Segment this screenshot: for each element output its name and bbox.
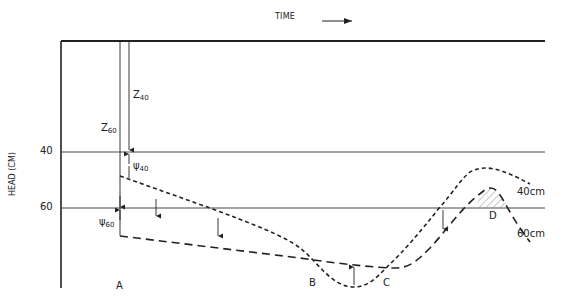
z60-label: Z60	[101, 122, 117, 135]
curve-40cm-label: 40cm	[517, 186, 545, 197]
y-axis-label: HEAD (CM)	[8, 152, 17, 196]
psi60-label: ψ60	[99, 216, 115, 229]
point-c-label: C	[383, 277, 390, 288]
point-a-label: A	[116, 280, 123, 291]
tick-60: 60	[40, 201, 53, 212]
time-axis-label: TIME	[275, 12, 295, 21]
diagram-canvas	[0, 0, 563, 303]
point-d-label: D	[489, 210, 497, 221]
curve-40cm	[120, 168, 530, 287]
curve-60cm-label: 60cm	[517, 228, 545, 239]
psi40-label: ψ40	[133, 160, 149, 173]
curve-60cm	[120, 188, 530, 268]
point-b-label: B	[309, 277, 316, 288]
z40-label: Z40	[133, 89, 149, 102]
tick-40: 40	[40, 145, 53, 156]
